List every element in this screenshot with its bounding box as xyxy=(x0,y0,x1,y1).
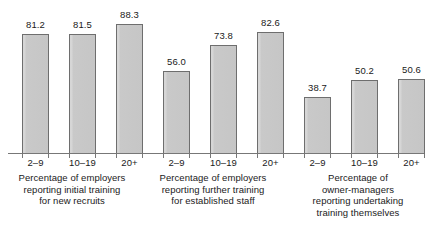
group-caption-2: Percentage of employers reporting furthe… xyxy=(143,172,283,207)
bar[interactable] xyxy=(210,45,237,154)
bar-value-label: 50.6 xyxy=(390,65,429,75)
caption-line: reporting further training xyxy=(143,184,283,196)
bar[interactable] xyxy=(304,97,331,154)
bar-value-label: 73.8 xyxy=(202,31,245,41)
bar[interactable] xyxy=(257,32,284,154)
bar[interactable] xyxy=(351,80,378,154)
category-label-2-1: 2–9 xyxy=(152,157,201,168)
bar-value-label: 50.2 xyxy=(343,66,386,76)
bar[interactable] xyxy=(398,79,425,154)
category-label-3-1: 2–9 xyxy=(293,157,342,168)
bar-value-label: 81.2 xyxy=(14,20,57,30)
bar-chart: 81.2 81.5 88.3 56.0 73.8 82.6 xyxy=(0,0,429,227)
group-caption-3: Percentage of owner-managers reporting u… xyxy=(288,172,428,218)
bar[interactable] xyxy=(163,71,190,154)
caption-line: reporting undertaking xyxy=(288,195,428,207)
bar-value-label: 81.5 xyxy=(61,20,104,30)
category-label-1-1: 2–9 xyxy=(11,157,60,168)
caption-line: Percentage of employers xyxy=(2,172,142,184)
caption-line: Percentage of employers xyxy=(143,172,283,184)
bar[interactable] xyxy=(116,24,143,154)
caption-line: owner-managers xyxy=(288,184,428,196)
caption-line: reporting initial training xyxy=(2,184,142,196)
bar-value-label: 82.6 xyxy=(249,18,292,28)
category-label-2-3: 20+ xyxy=(246,157,295,168)
category-label-3-2: 10–19 xyxy=(340,157,389,168)
bar-group-1: 81.2 81.5 88.3 xyxy=(22,0,122,154)
caption-line: Percentage of xyxy=(288,172,428,184)
x-axis-line xyxy=(8,153,424,154)
bar-value-label: 38.7 xyxy=(296,83,339,93)
bar-group-2: 56.0 73.8 82.6 xyxy=(163,0,263,154)
caption-line: for established staff xyxy=(143,195,283,207)
bar-value-label: 56.0 xyxy=(155,57,198,67)
bar-group-3: 38.7 50.2 50.6 xyxy=(304,0,404,154)
caption-line: for new recruits xyxy=(2,195,142,207)
group-caption-1: Percentage of employers reporting initia… xyxy=(2,172,142,207)
caption-line: training themselves xyxy=(288,207,428,219)
bar[interactable] xyxy=(22,34,49,154)
category-label-1-2: 10–19 xyxy=(58,157,107,168)
bar-value-label: 88.3 xyxy=(108,10,151,20)
category-label-3-3: 20+ xyxy=(387,157,429,168)
bar[interactable] xyxy=(69,34,96,154)
category-label-1-3: 20+ xyxy=(105,157,154,168)
plot-area: 81.2 81.5 88.3 56.0 73.8 82.6 xyxy=(0,0,429,154)
category-label-2-2: 10–19 xyxy=(199,157,248,168)
